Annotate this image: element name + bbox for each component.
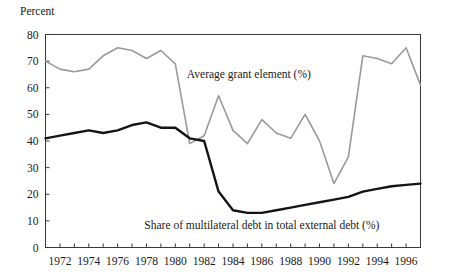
x-tick-label: 1972 <box>48 255 71 267</box>
y-tick-label: 50 <box>27 108 39 120</box>
y-tick-label: 80 <box>27 29 39 41</box>
x-tick-label: 1988 <box>279 255 302 267</box>
x-tick-label: 1990 <box>308 255 331 267</box>
x-tick-label: 1994 <box>366 255 389 267</box>
x-tick-label: 1992 <box>337 255 360 267</box>
series-annotation-0: Average grant element (%) <box>187 68 311 81</box>
line-chart-plot: 0102030405060708019721974197619781980198… <box>0 0 457 279</box>
x-tick-label: 1984 <box>222 255 245 267</box>
chart-figure: Percent 01020304050607080197219741976197… <box>0 0 457 279</box>
x-tick-label: 1978 <box>135 255 158 267</box>
y-tick-label: 10 <box>27 215 39 227</box>
y-tick-label: 70 <box>27 55 39 67</box>
y-tick-label: 20 <box>27 188 39 200</box>
x-tick-label: 1996 <box>395 255 418 267</box>
x-tick-label: 1986 <box>250 255 273 267</box>
y-tick-label: 40 <box>27 135 39 147</box>
plot-frame <box>46 35 421 248</box>
x-tick-label: 1974 <box>77 255 100 267</box>
y-tick-label: 30 <box>27 162 39 174</box>
y-tick-label: 0 <box>33 242 39 254</box>
series-line-1 <box>46 122 421 213</box>
y-tick-label: 60 <box>27 82 39 94</box>
x-tick-label: 1982 <box>193 255 216 267</box>
x-tick-label: 1976 <box>106 255 129 267</box>
series-annotation-1: Share of multilateral debt in total exte… <box>144 219 379 232</box>
x-tick-label: 1980 <box>164 255 187 267</box>
